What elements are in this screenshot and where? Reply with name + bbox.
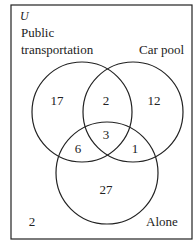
- region-public-only: 17: [51, 93, 65, 108]
- region-public-carpool: 2: [103, 93, 110, 108]
- label-public: Public: [21, 25, 54, 40]
- region-carpool-alone: 1: [132, 141, 139, 156]
- venn-diagram: U Public transportation Car pool Alone 1…: [0, 0, 196, 244]
- label-alone: Alone: [146, 214, 178, 229]
- region-carpool-only: 12: [148, 93, 161, 108]
- label-car-pool: Car pool: [139, 42, 185, 57]
- region-public-alone: 6: [75, 141, 82, 156]
- label-transportation: transportation: [21, 42, 94, 57]
- circle-public-transportation: [32, 62, 132, 162]
- region-none: 2: [29, 214, 36, 229]
- region-all-three: 3: [103, 127, 110, 142]
- universe-label: U: [20, 9, 30, 23]
- region-alone-only: 27: [100, 182, 114, 197]
